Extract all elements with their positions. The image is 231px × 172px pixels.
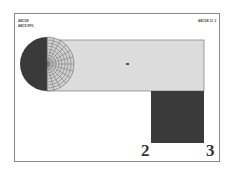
circle-dark-half	[20, 37, 47, 91]
dark-square	[151, 91, 204, 143]
diagram-graphic	[0, 0, 231, 172]
center-marker	[126, 63, 129, 65]
corner-label-2: 2	[141, 142, 150, 159]
corner-label-3: 3	[206, 142, 215, 159]
